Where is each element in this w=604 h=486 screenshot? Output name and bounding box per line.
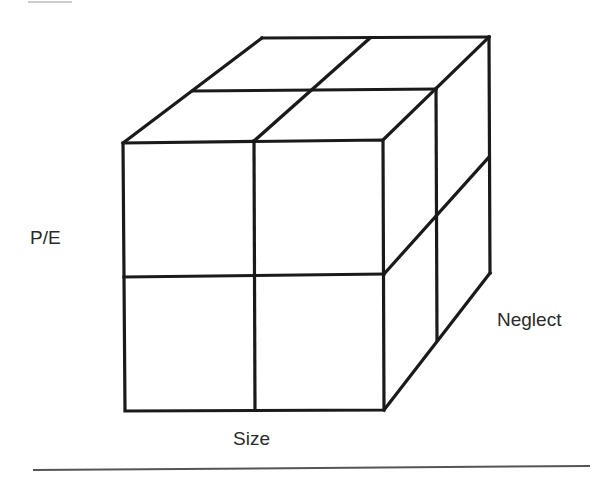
bottom-rule (33, 466, 590, 470)
front-face-horizontal-divider (124, 274, 384, 277)
top-face-back-edge (262, 37, 489, 38)
axis-label-pe: P/E (30, 227, 61, 249)
cube-diagram: P/E Neglect Size (0, 0, 604, 486)
cube-drawing (0, 0, 604, 486)
axis-label-size: Size (233, 428, 270, 450)
axis-label-neglect: Neglect (497, 309, 561, 331)
